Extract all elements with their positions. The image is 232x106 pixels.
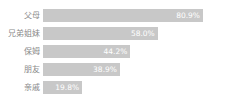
value-bar: 58.0% [43, 27, 158, 40]
category-label: 亲戚 [0, 81, 43, 94]
bar-value-label: 80.9% [176, 9, 200, 22]
bar-value-label: 44.2% [104, 45, 128, 58]
category-label: 朋友 [0, 63, 43, 76]
chart-row: 朋友 38.9% [0, 63, 232, 76]
chart-row: 保姆 44.2% [0, 45, 232, 58]
category-label: 父母 [0, 9, 43, 22]
chart-row: 父母 80.9% [0, 9, 232, 22]
chart-row: 兄弟姐妹 58.0% [0, 27, 232, 40]
bar-value-label: 38.9% [93, 63, 117, 76]
value-bar: 44.2% [43, 45, 130, 58]
bar-value-label: 19.8% [55, 81, 79, 94]
bar-track: 19.8% [43, 81, 232, 94]
chart-row: 亲戚 19.8% [0, 81, 232, 94]
category-label: 兄弟姐妹 [0, 27, 43, 40]
value-bar: 38.9% [43, 63, 120, 76]
bar-value-label: 58.0% [131, 27, 155, 40]
bar-track: 80.9% [43, 9, 232, 22]
value-bar: 19.8% [43, 81, 82, 94]
bar-track: 44.2% [43, 45, 232, 58]
bar-track: 58.0% [43, 27, 232, 40]
category-label: 保姆 [0, 45, 43, 58]
value-bar: 80.9% [43, 9, 203, 22]
horizontal-bar-chart: 父母 80.9% 兄弟姐妹 58.0% 保姆 44.2% 朋友 38.9% [0, 0, 232, 106]
bar-track: 38.9% [43, 63, 232, 76]
